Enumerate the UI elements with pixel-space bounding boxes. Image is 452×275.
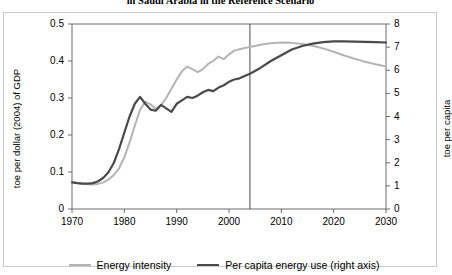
chart-plot-area: [4, 13, 436, 266]
legend-line-icon: [197, 264, 219, 266]
y-axis-right-tick: 6: [394, 64, 424, 75]
y-axis-left-title: toe per dollar (2004) of GDP: [11, 54, 22, 204]
chart-legend: Energy intensityPer capita energy use (r…: [7, 251, 441, 275]
chart-title: in Saudi Arabia in the Reference Scenari…: [0, 0, 441, 7]
legend-line-icon: [69, 264, 91, 266]
x-axis-tick: 2030: [363, 216, 409, 227]
y-axis-right-tick: 1: [394, 180, 424, 191]
y-axis-right-title: toe per capita: [441, 54, 452, 204]
y-axis-left-tick: 0.1: [34, 166, 64, 177]
legend-label: Energy intensity: [97, 259, 172, 271]
legend-label: Per capita energy use (right axis): [225, 259, 379, 271]
y-axis-left-tick: 0.3: [34, 92, 64, 103]
y-axis-right-tick: 7: [394, 41, 424, 52]
y-axis-right-tick: 3: [394, 134, 424, 145]
x-axis-tick: 1980: [101, 216, 147, 227]
x-axis-tick: 2000: [206, 216, 252, 227]
x-axis-tick: 2010: [258, 216, 304, 227]
chart-frame: toe per dollar (2004) of GDP toe per cap…: [3, 12, 437, 267]
y-axis-right-tick: 0: [394, 203, 424, 214]
x-axis-tick: 2020: [311, 216, 357, 227]
x-axis-tick: 1990: [154, 216, 200, 227]
y-axis-right-tick: 8: [394, 18, 424, 29]
y-axis-right-tick: 5: [394, 87, 424, 98]
y-axis-right-tick: 2: [394, 157, 424, 168]
y-axis-left-tick: 0: [34, 203, 64, 214]
y-axis-right-tick: 4: [394, 111, 424, 122]
y-axis-left-tick: 0.2: [34, 129, 64, 140]
y-axis-left-tick: 0.5: [34, 18, 64, 29]
y-axis-left-tick: 0.4: [34, 55, 64, 66]
x-axis-tick: 1970: [49, 216, 95, 227]
legend-item[interactable]: Energy intensity: [69, 259, 172, 271]
legend-item[interactable]: Per capita energy use (right axis): [197, 259, 379, 271]
